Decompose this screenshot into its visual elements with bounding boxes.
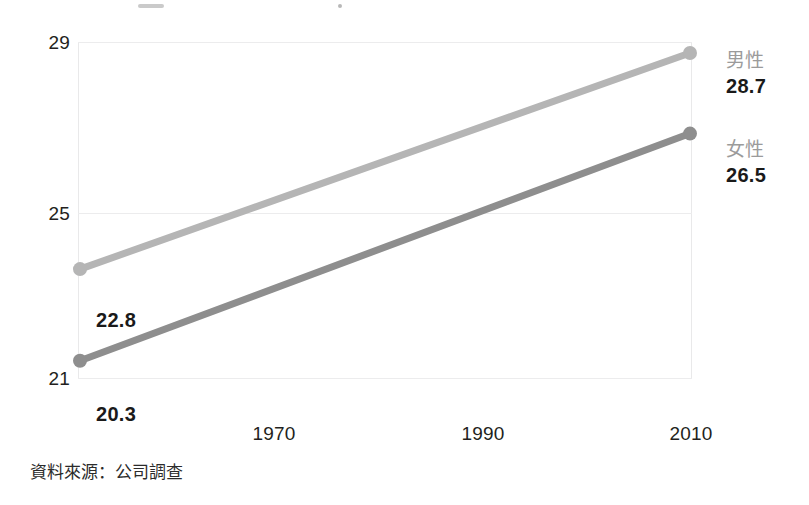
series-name-female: 女性 — [726, 138, 809, 162]
series-line-male — [80, 53, 690, 269]
data-point-female-start — [73, 354, 87, 368]
data-label-male-start: 22.8 — [96, 310, 136, 330]
series-male — [73, 46, 697, 276]
data-point-male-end — [683, 46, 697, 60]
series-tag-male: 男性 28.7 — [726, 49, 809, 99]
data-label-female-start: 20.3 — [96, 404, 136, 424]
data-label-female-end: 26.5 — [726, 162, 809, 188]
series-tag-female: 女性 26.5 — [726, 138, 809, 188]
series-name-male: 男性 — [726, 49, 809, 73]
series-line-female — [80, 134, 690, 361]
data-label-male-end: 28.7 — [726, 73, 809, 99]
source-note: 資料來源：公司調查 — [30, 461, 183, 483]
data-point-male-start — [73, 262, 87, 276]
data-point-female-end — [683, 127, 697, 141]
line-chart: 29 25 21 1970 1990 2010 22.8 20.3 男性 28.… — [0, 0, 809, 505]
series-layer — [0, 0, 809, 505]
